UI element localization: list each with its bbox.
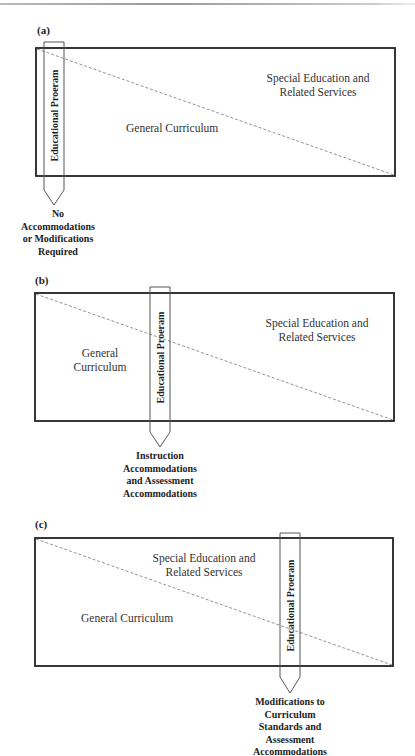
panel-c-special-line2: Related Services — [144, 565, 264, 579]
panel-b-general-line1: General — [60, 346, 140, 360]
panel-a-box — [36, 48, 395, 176]
panel-b-special-education: Special Education and Related Services — [257, 316, 377, 344]
panel-b-general-curriculum: General Curriculum — [60, 346, 140, 374]
panel-c-callout: Modifications to Curriculum Standards an… — [235, 696, 345, 756]
panel-b-pencil-label: Educational Proeram — [155, 308, 166, 408]
panel-b-general-line2: Curriculum — [60, 360, 140, 374]
panel-a-special-line2: Related Services — [258, 85, 378, 99]
diagram-canvas — [0, 0, 415, 756]
panel-a-general-curriculum: General Curriculum — [126, 121, 218, 135]
panel-a-pencil-label: Educational Proeram — [49, 66, 60, 166]
panel-b-callout: Instruction Accommodations and Assessmen… — [110, 450, 210, 500]
panel-c-pencil-label: Educational Proeram — [285, 556, 296, 656]
panel-c-special-line1: Special Education and — [144, 551, 264, 565]
panel-b-special-line1: Special Education and — [257, 316, 377, 330]
panel-c-label: (c) — [35, 518, 47, 530]
panel-b-label: (b) — [35, 274, 48, 286]
panel-c-general-curriculum: General Curriculum — [81, 611, 173, 625]
panel-a-special-line1: Special Education and — [258, 71, 378, 85]
panel-a-label: (a) — [37, 24, 50, 36]
panel-a-diagonal — [37, 49, 394, 175]
panel-a-callout: No Accommodations or Modifications Requi… — [8, 208, 108, 258]
panel-b-special-line2: Related Services — [257, 330, 377, 344]
panel-c-special-education: Special Education and Related Services — [144, 551, 264, 579]
panel-a-special-education: Special Education and Related Services — [258, 71, 378, 99]
